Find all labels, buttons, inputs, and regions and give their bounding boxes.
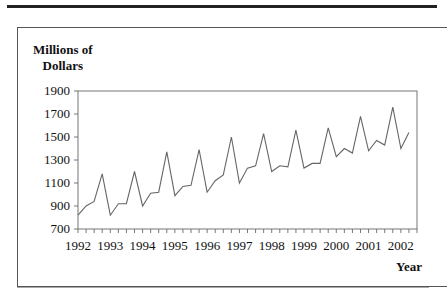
- plot-area: [78, 91, 417, 229]
- series-line: [78, 107, 409, 215]
